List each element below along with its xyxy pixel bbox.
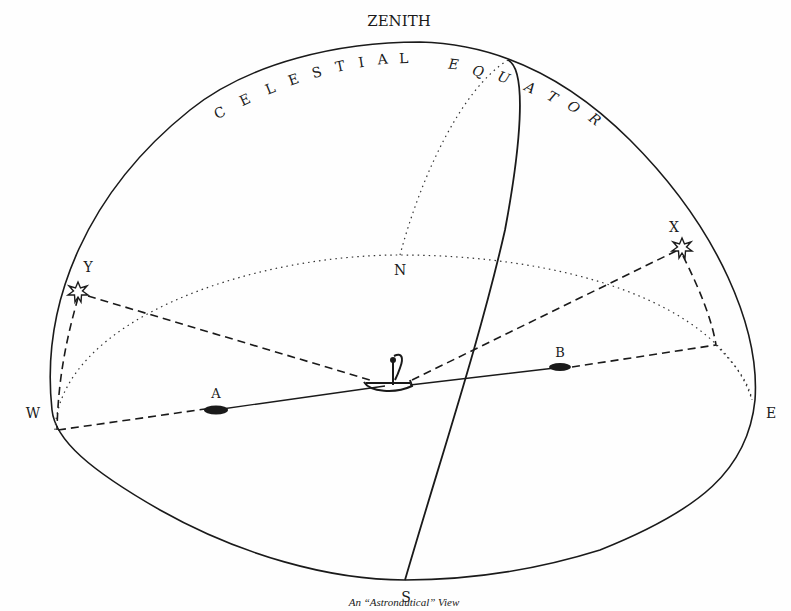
canoe-observer-icon xyxy=(364,355,412,391)
svg-text:L: L xyxy=(399,50,409,66)
island-b-icon xyxy=(549,363,571,371)
svg-text:O: O xyxy=(565,97,584,117)
svg-text:E: E xyxy=(237,90,253,109)
horizon-back-dotted xyxy=(55,255,752,430)
svg-text:T: T xyxy=(334,57,347,75)
figure-caption: An “Astronautical” View xyxy=(348,596,460,608)
celestial-dome-outline xyxy=(50,42,755,580)
diagram-canvas: ZENITH N S E W X Y A B C E L E S T I A L… xyxy=(0,0,791,611)
west-label: W xyxy=(26,405,41,421)
dash-w-to-a xyxy=(58,409,205,430)
island-a-label: A xyxy=(210,386,221,401)
svg-text:E: E xyxy=(447,55,460,72)
dash-ship-to-x xyxy=(412,250,678,380)
svg-text:R: R xyxy=(585,109,604,129)
svg-text:L: L xyxy=(263,79,278,97)
dash-b-to-e xyxy=(572,345,716,367)
horizon-front-dotted xyxy=(716,345,752,400)
svg-text:A: A xyxy=(520,77,538,97)
north-label: N xyxy=(394,262,406,278)
dashed-bearing-lines xyxy=(57,250,716,430)
island-b-label: B xyxy=(555,345,565,360)
dash-y-to-w xyxy=(57,298,78,430)
star-x-label: X xyxy=(669,219,679,235)
svg-text:C: C xyxy=(211,103,228,122)
astronautical-diagram: ZENITH N S E W X Y A B C E L E S T I A L… xyxy=(0,0,791,611)
svg-text:A: A xyxy=(376,50,390,67)
dash-y-to-ship xyxy=(88,296,370,380)
east-label: E xyxy=(766,405,776,421)
svg-text:I: I xyxy=(357,54,365,71)
meridian-dotted xyxy=(400,60,508,255)
svg-text:Q: Q xyxy=(471,62,486,80)
zenith-label: ZENITH xyxy=(367,12,431,30)
svg-text:T: T xyxy=(544,87,562,106)
dash-x-to-horizon xyxy=(683,256,716,345)
horizon-sightline xyxy=(215,368,555,410)
star-x-icon xyxy=(672,238,692,258)
celestial-arc-text: C E L E S T I A L xyxy=(211,50,409,122)
star-y-label: Y xyxy=(82,259,93,275)
island-a-icon xyxy=(204,406,228,415)
svg-text:E: E xyxy=(286,70,301,88)
svg-text:U: U xyxy=(495,68,513,87)
celestial-equator-line xyxy=(405,60,520,580)
svg-text:S: S xyxy=(310,63,324,81)
